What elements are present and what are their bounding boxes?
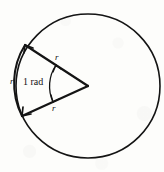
radius-lower-label: r — [52, 104, 56, 113]
angle-measure-label: 1 rad — [23, 77, 43, 87]
angle-arrowhead-upper-icon — [53, 65, 61, 72]
geometry-figure: r r r 1 rad — [0, 0, 164, 172]
radius-upper-label: r — [55, 53, 59, 62]
arc-length-label: r — [10, 77, 14, 86]
angle-arrowhead-lower-icon — [51, 95, 59, 102]
angle-arc — [50, 65, 56, 102]
